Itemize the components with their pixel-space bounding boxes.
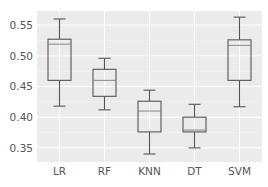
y-tick-label: 0.40 — [10, 111, 33, 123]
x-tick-label: DT — [187, 165, 202, 177]
y-tick-label: 0.45 — [10, 80, 33, 92]
x-tick-label: SVM — [228, 165, 251, 177]
x-tick-label: RF — [98, 165, 111, 177]
y-tick-label: 0.35 — [10, 142, 33, 154]
x-tick-label: LR — [53, 165, 66, 177]
box-plot-chart: 0.350.400.450.500.55 LRRFKNNDTSVM — [0, 0, 268, 187]
y-axis: 0.350.400.450.500.55 — [10, 19, 33, 154]
y-tick-label: 0.50 — [10, 50, 33, 62]
x-tick-label: KNN — [138, 165, 161, 177]
y-tick-label: 0.55 — [10, 19, 33, 31]
x-axis: LRRFKNNDTSVM — [53, 165, 251, 177]
